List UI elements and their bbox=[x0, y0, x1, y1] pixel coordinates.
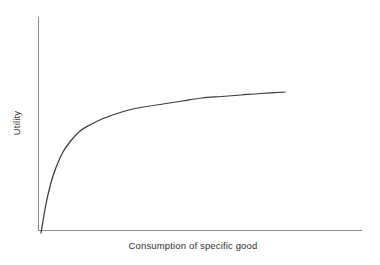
y-axis-label: Utility bbox=[11, 111, 22, 135]
chart-background bbox=[0, 0, 380, 265]
chart-canvas: Consumption of specific good Utility bbox=[0, 0, 380, 265]
utility-chart-figure: Consumption of specific good Utility bbox=[0, 0, 380, 265]
x-axis-label: Consumption of specific good bbox=[129, 240, 258, 251]
